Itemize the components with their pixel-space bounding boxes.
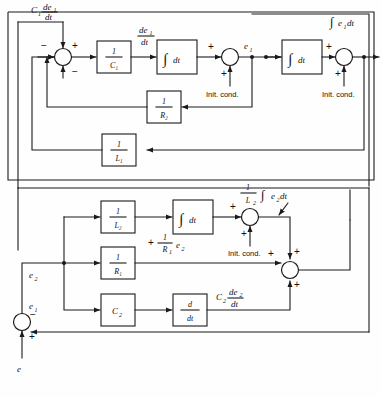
label-r1-den: R [162, 245, 168, 254]
svg-text:L: L [245, 196, 251, 205]
wire-sum3-to-output [259, 217, 290, 259]
svg-text:de: de [43, 2, 52, 12]
label-de1-dt: de 1 dt [138, 25, 154, 47]
sum-junction-e1[interactable] [222, 49, 239, 66]
sum-junction-output[interactable] [282, 262, 299, 279]
svg-text:2: 2 [182, 246, 185, 252]
svg-text:dt: dt [347, 18, 355, 28]
svg-text:1: 1 [250, 47, 253, 53]
svg-text:dt: dt [231, 299, 239, 309]
svg-text:2: 2 [119, 312, 122, 318]
label-init-cond-2: Init. cond. [322, 90, 355, 99]
svg-text:dt: dt [280, 191, 288, 201]
block-diagram-canvas: C 1 de 1 dt − + − 1 C₁ de 1 dt ∫ dt + + … [0, 0, 382, 397]
label-e1-upper: e [244, 41, 248, 51]
wire-L1-to-sum1 [32, 57, 102, 150]
label-init-cond-3: Init. cond. [228, 249, 261, 258]
svg-text:2: 2 [240, 292, 243, 298]
label-e: e [17, 364, 21, 374]
block-ddt-den: dt [187, 314, 194, 323]
label-r1-var: e [176, 240, 180, 250]
label-e2: e [29, 270, 33, 280]
block-1-over-C1-den: C₁ [110, 61, 118, 70]
svg-text:1: 1 [38, 11, 41, 17]
svg-text:dt: dt [298, 55, 306, 65]
label-e1-lower: e [29, 301, 33, 311]
wire-output-to-right [299, 220, 350, 270]
svg-text:1: 1 [246, 183, 250, 192]
svg-text:dt: dt [189, 215, 197, 225]
svg-text:1: 1 [35, 307, 38, 313]
block-C2-label: C [112, 306, 119, 316]
diagram-svg: C 1 de 1 dt − + − 1 C₁ de 1 dt ∫ dt + + … [0, 0, 382, 397]
sign-plus-bottom-2: + [335, 68, 341, 79]
label-r1-branch: + 1 R 1 e 2 [148, 233, 185, 255]
svg-text:2: 2 [223, 298, 226, 304]
sum-junction-integral-e1[interactable] [336, 49, 353, 66]
svg-text:1: 1 [150, 30, 153, 36]
sign-plus-bottom-3: + [241, 228, 247, 239]
sum-junction-1[interactable] [55, 49, 72, 66]
svg-text:dt: dt [45, 12, 53, 22]
svg-text:2: 2 [253, 200, 256, 206]
svg-text:∫: ∫ [260, 187, 266, 203]
sign-plus-bottom-e1: + [221, 68, 227, 79]
svg-text:e: e [338, 18, 342, 28]
sign-plus-top-out: + [294, 246, 300, 257]
label-c1-de1-dt: C 1 de 1 dt [31, 2, 57, 22]
sign-plus-input-e: + [29, 331, 35, 342]
block-1-over-C1-num: 1 [112, 47, 116, 56]
sign-plus-bottom-out: + [294, 279, 300, 290]
sign-plus-left-e1: + [208, 41, 214, 52]
wire-e2-to-C2 [64, 263, 100, 310]
svg-text:2: 2 [35, 276, 38, 282]
block-1-over-R2-den: R₂ [159, 111, 168, 120]
block-1-over-R1-num: 1 [116, 253, 120, 262]
svg-text:1: 1 [169, 249, 172, 255]
sign-minus-left-1: − [41, 40, 47, 51]
sign-plus-left-out: + [268, 248, 274, 259]
sign-plus-left-3: + [230, 201, 236, 212]
sign-minus-bottom-1: − [72, 66, 78, 77]
svg-text:dt: dt [173, 55, 181, 65]
label-r1-plus: + [148, 237, 154, 248]
label-c1: C [31, 5, 38, 15]
svg-text:dt: dt [141, 37, 149, 47]
block-1-over-R1-den: R₁ [113, 267, 122, 276]
svg-text:de: de [139, 25, 148, 35]
sum-junction-input-e[interactable] [14, 314, 31, 331]
label-c2-de2-dt: C 2 de 2 dt [216, 287, 243, 309]
block-1-over-L2-den: L₂ [113, 221, 121, 230]
svg-text:∫: ∫ [329, 14, 335, 30]
block-1-over-R2-num: 1 [162, 97, 166, 106]
block-1-over-L1-num: 1 [117, 140, 121, 149]
svg-text:de: de [229, 287, 238, 297]
label-r1-num: 1 [163, 233, 167, 242]
svg-text:e: e [271, 191, 275, 201]
block-1-over-L2-num: 1 [116, 207, 120, 216]
sign-plus-left-2: + [326, 41, 332, 52]
sign-plus-top-1: + [72, 40, 78, 51]
label-c2-pre: C [216, 292, 223, 302]
label-init-cond-1: Init. cond. [206, 90, 239, 99]
sum-junction-integral-e2[interactable] [242, 209, 259, 226]
label-integral-e1dt: ∫ e 1 dt [329, 14, 355, 30]
block-1-over-L1-den: L₁ [114, 154, 122, 163]
